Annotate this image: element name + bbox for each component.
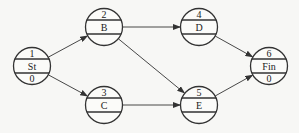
arrow-e-to-fin (215, 75, 252, 96)
node-number: 5 (197, 87, 202, 98)
arrow-d-to-fin (215, 36, 252, 57)
node-bottom-value: 0 (30, 73, 35, 84)
node-label: E (196, 100, 202, 111)
arrow-b-to-e (118, 39, 184, 93)
node-fin: 6Fin0 (251, 48, 288, 85)
node-label: C (101, 100, 108, 111)
node-b: 2B (86, 9, 123, 46)
edges-layer (48, 27, 252, 105)
diagram-canvas: 1St02B3C4D5E6Fin0 (0, 0, 299, 133)
node-e: 5E (181, 87, 218, 124)
network-diagram: 1St02B3C4D5E6Fin0 (0, 0, 299, 133)
node-number: 6 (267, 48, 272, 59)
node-st: 1St0 (14, 48, 51, 85)
node-c: 3C (86, 87, 123, 124)
node-d: 4D (181, 9, 218, 46)
node-label: D (195, 22, 202, 33)
node-number: 1 (30, 48, 35, 59)
node-label: St (28, 61, 37, 72)
node-number: 4 (197, 9, 202, 20)
node-label: Fin (262, 61, 275, 72)
node-number: 2 (102, 9, 107, 20)
node-number: 3 (102, 87, 107, 98)
node-label: B (101, 22, 108, 33)
node-bottom-value: 0 (267, 73, 272, 84)
arrow-st-to-c (48, 75, 87, 96)
nodes-layer: 1St02B3C4D5E6Fin0 (14, 9, 288, 124)
arrow-st-to-b (48, 36, 87, 57)
